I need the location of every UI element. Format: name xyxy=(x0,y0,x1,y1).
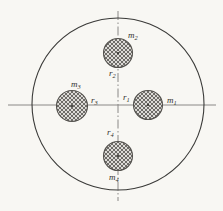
mass-3-center-dot xyxy=(71,105,73,107)
mass-2-radius-label: r2 xyxy=(109,68,117,79)
mass-3-radius-label: r3 xyxy=(91,95,98,106)
mass-2-mass-label: m2 xyxy=(128,30,139,41)
mass-1-radius-label: r1 xyxy=(123,92,130,103)
figure-container: m1r1m2r2m3r3m4r4 xyxy=(0,0,223,211)
mass-2-center-dot xyxy=(117,52,119,54)
mass-4-center-dot xyxy=(117,155,119,157)
mass-4-radius-label: r4 xyxy=(107,127,115,138)
mass-1-mass-label: m1 xyxy=(167,95,177,106)
mass-balance-diagram: m1r1m2r2m3r3m4r4 xyxy=(0,0,223,211)
mass-1-center-dot xyxy=(147,104,149,106)
mass-3-mass-label: m3 xyxy=(71,79,81,90)
